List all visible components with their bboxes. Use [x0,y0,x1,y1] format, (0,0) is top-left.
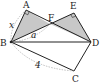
geometry-figure: A B C D E F x a 4 [0,0,101,84]
label-d: D [92,38,99,48]
segment-label-ab: x [9,20,14,30]
label-a: A [22,0,30,10]
point-b-dot [10,41,13,44]
shaded-triangle-efd [50,13,91,42]
segment-label-bf: a [31,30,36,40]
edge-cd [74,42,91,71]
label-e: E [70,1,77,11]
label-f: F [48,13,54,23]
label-c: C [72,74,79,84]
label-b: B [0,38,7,48]
segment-label-bc: 4 [34,60,41,70]
edge-bc [11,42,74,71]
